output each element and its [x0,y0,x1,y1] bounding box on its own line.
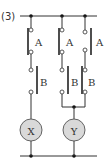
lamp-label: X [27,126,35,137]
ladder-circuit-diagram: (3) A B X [0,0,108,167]
contact [60,50,64,54]
contact [83,90,87,94]
lamp-y: Y [63,119,85,141]
lamp-label: Y [70,126,78,137]
column-1: A B X [20,16,47,156]
switch-label: B [40,77,47,88]
switch-label: A [95,37,104,48]
switch-b-col3: B [82,66,95,94]
switch-label: A [34,37,43,48]
lamp-x: X [20,119,42,141]
switch-label: B [88,77,95,88]
contact [83,30,87,34]
contact [83,48,87,52]
switch-b-col2: B [60,66,78,94]
contact [29,50,33,54]
contact [29,28,33,32]
contact [29,68,33,72]
contact [60,68,64,72]
switch-b-col1: B [29,66,47,94]
switch-a-col1: A [28,28,43,55]
switch-label: A [65,37,74,48]
column-2: A B [59,16,78,107]
contact [60,90,64,94]
switch-a-col2: A [59,28,74,55]
column-3: A B [82,16,104,107]
problem-number: (3) [1,11,15,22]
switch-a-col3: A [83,28,104,55]
contact [83,68,87,72]
switch-label: B [71,77,78,88]
contact [29,90,33,94]
contact [60,28,64,32]
